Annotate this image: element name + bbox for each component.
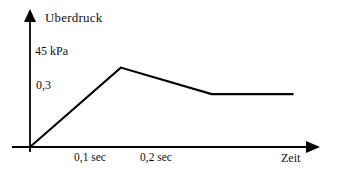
y-axis-tick-label-0-3: 0,3 bbox=[36, 79, 51, 91]
chart-figure: Uberdruck 45 kPa 0,3 0,1 sec 0,2 sec Zei… bbox=[0, 0, 337, 180]
x-axis-tick-label-0-2-sec: 0,2 sec bbox=[140, 152, 172, 164]
x-axis-tick-label-0-1-sec: 0,1 sec bbox=[74, 152, 106, 164]
x-axis-title: Zeit bbox=[281, 152, 300, 164]
y-axis-title: Uberdruck bbox=[45, 11, 102, 24]
y-axis-tick-label-45kpa: 45 kPa bbox=[35, 45, 68, 57]
